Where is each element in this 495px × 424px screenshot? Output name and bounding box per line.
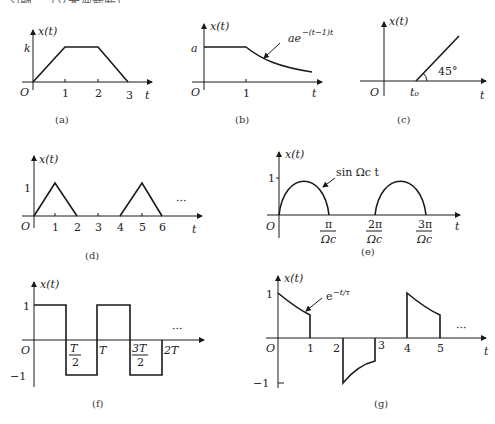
svg-text:3T: 3T bbox=[132, 342, 148, 355]
caption: (g) bbox=[374, 398, 388, 409]
origin-label: O bbox=[21, 344, 30, 357]
annotation-exponent: −t/τ bbox=[333, 288, 351, 297]
svg-text:2π: 2π bbox=[368, 218, 382, 231]
annotation-exponent: −(t−1)t bbox=[302, 28, 334, 37]
caption: (a) bbox=[55, 114, 69, 125]
plot-e: x(t) 1 O sin Ωc t π Ωc 2π Ωc 3π Ωc t (e) bbox=[266, 148, 460, 257]
x-label: t bbox=[480, 89, 485, 102]
exp-pulse-1 bbox=[278, 293, 310, 338]
y-tick-a: a bbox=[191, 42, 198, 55]
angle-label: 45° bbox=[438, 65, 458, 78]
x-tick: 1 bbox=[62, 87, 69, 100]
svg-text:T: T bbox=[70, 342, 79, 355]
svg-text:3π: 3π bbox=[418, 218, 432, 231]
signal-figure-sheet: 习题…（文本被截断） x(t) k O 1 2 3 t (a) bbox=[0, 0, 495, 424]
annotation-arrow bbox=[264, 43, 280, 58]
x-tick: 5 bbox=[139, 221, 146, 234]
caption: (b) bbox=[235, 114, 249, 125]
y-tick-k: k bbox=[24, 42, 31, 55]
x-tick: 3 bbox=[378, 339, 385, 352]
annotation-arrow bbox=[323, 178, 335, 187]
x-tick: 3 bbox=[95, 221, 102, 234]
x-tick: 4 bbox=[404, 342, 411, 355]
plot-a: x(t) k O 1 2 3 t (a) bbox=[20, 25, 152, 125]
y-tick: 1 bbox=[23, 300, 30, 313]
y-label: x(t) bbox=[389, 15, 408, 28]
x-tick-pi: π Ωc bbox=[320, 218, 336, 246]
y-label: x(t) bbox=[38, 25, 57, 38]
x-tick: 2 bbox=[95, 87, 102, 100]
plot-g: x(t) 1 −1 O 1 2 3 4 5 e −t/τ ··· t (g) bbox=[253, 272, 489, 409]
plot-f: x(t) 1 −1 O T 2 T 3T 2 2T ··· (f) bbox=[10, 278, 204, 409]
origin-label: O bbox=[370, 86, 379, 99]
x-tick: 6 bbox=[159, 221, 166, 234]
triangle-pulse-1 bbox=[34, 183, 77, 216]
x-tick-T: T bbox=[99, 344, 108, 357]
y-label: x(t) bbox=[40, 278, 59, 291]
x-tick-half-T: T 2 bbox=[69, 342, 81, 369]
ellipsis: ··· bbox=[172, 323, 183, 336]
exp-pulse-2-negative bbox=[343, 338, 375, 383]
half-sine-2 bbox=[375, 181, 426, 215]
plot-d: x(t) 1 O 1 2 3 4 5 6 ··· t (d) bbox=[21, 153, 202, 261]
svg-text:2: 2 bbox=[137, 356, 144, 369]
ellipsis: ··· bbox=[176, 195, 187, 208]
caption: (d) bbox=[85, 250, 99, 261]
exp-decay-signal bbox=[204, 47, 312, 72]
x-label: t bbox=[455, 220, 460, 233]
x-tick-3pi: 3π Ωc bbox=[416, 218, 432, 246]
figures-svg: x(t) k O 1 2 3 t (a) x(t) a O 1 t ae −(t… bbox=[0, 0, 495, 424]
triangle-pulse-2 bbox=[120, 183, 162, 216]
svg-text:π: π bbox=[325, 218, 332, 231]
annotation-arrow bbox=[306, 298, 322, 311]
y-label: x(t) bbox=[285, 148, 304, 161]
svg-text:2: 2 bbox=[72, 356, 79, 369]
x-tick: 5 bbox=[437, 342, 444, 355]
x-tick: 4 bbox=[117, 221, 124, 234]
y-label: x(t) bbox=[39, 153, 58, 166]
angle-arc bbox=[423, 73, 427, 81]
caption: (c) bbox=[397, 114, 411, 125]
x-tick: 1 bbox=[52, 221, 59, 234]
x-label: t bbox=[312, 87, 317, 100]
origin-label: O bbox=[21, 220, 30, 233]
x-tick: 2 bbox=[74, 221, 81, 234]
x-tick-2pi: 2π Ωc bbox=[366, 218, 382, 246]
x-label: t bbox=[145, 89, 150, 102]
y-tick: 1 bbox=[268, 172, 275, 185]
exp-pulse-3 bbox=[407, 293, 440, 338]
origin-label: O bbox=[20, 86, 29, 99]
x-tick-2T: 2T bbox=[163, 344, 180, 357]
svg-text:Ωc: Ωc bbox=[320, 233, 336, 246]
y-tick: −1 bbox=[10, 370, 26, 383]
annotation-label: e bbox=[326, 290, 333, 303]
origin-label: O bbox=[266, 220, 275, 233]
x-tick-t0: t₀ bbox=[410, 86, 419, 99]
annotation-label: ae bbox=[288, 32, 302, 45]
annotation-label: sin Ωc t bbox=[336, 166, 380, 179]
ellipsis: ··· bbox=[456, 322, 467, 335]
x-tick: 1 bbox=[307, 342, 314, 355]
plot-b: x(t) a O 1 t ae −(t−1)t (b) bbox=[191, 20, 334, 125]
origin-label: O bbox=[266, 342, 275, 355]
x-label: t bbox=[484, 345, 489, 358]
caption: (e) bbox=[361, 246, 375, 257]
y-label: x(t) bbox=[284, 272, 303, 285]
y-tick: 1 bbox=[24, 182, 31, 195]
trapezoid-signal bbox=[33, 47, 128, 82]
y-tick: −1 bbox=[253, 377, 269, 390]
x-tick: 2 bbox=[333, 342, 340, 355]
x-tick: 3 bbox=[126, 89, 133, 102]
x-tick-3half-T: 3T 2 bbox=[132, 342, 148, 369]
half-sine-1 bbox=[279, 181, 329, 215]
plot-c: x(t) O t₀ 45° t (c) bbox=[360, 15, 486, 125]
y-label: x(t) bbox=[210, 20, 229, 33]
caption: (f) bbox=[92, 398, 104, 409]
x-tick: 1 bbox=[243, 87, 250, 100]
y-tick: 1 bbox=[266, 288, 273, 301]
svg-text:Ωc: Ωc bbox=[416, 233, 432, 246]
origin-label: O bbox=[191, 86, 200, 99]
svg-text:Ωc: Ωc bbox=[366, 233, 382, 246]
x-label: t bbox=[192, 223, 197, 236]
